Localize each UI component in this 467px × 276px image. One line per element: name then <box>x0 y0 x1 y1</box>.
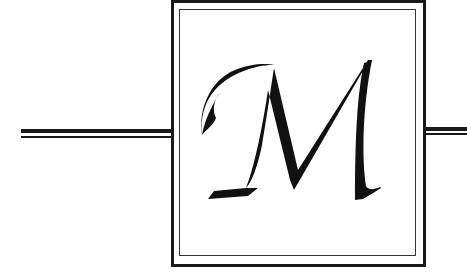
right-rule-thick <box>423 127 467 131</box>
drop-cap-ornament: M <box>0 0 467 276</box>
left-rule-thick <box>21 129 172 133</box>
left-rule-thin <box>21 136 172 138</box>
right-rule-thin <box>423 133 467 135</box>
letter-m-glyph <box>190 50 400 210</box>
